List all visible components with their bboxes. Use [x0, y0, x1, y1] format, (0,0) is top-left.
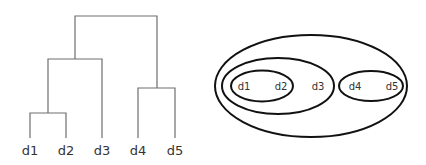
nested-sets: d1 d2 d3 d4 d5: [215, 35, 407, 137]
leaf-label-d3: d3: [94, 143, 111, 158]
set-label-d2: d2: [275, 81, 288, 92]
set-label-d3: d3: [312, 81, 325, 92]
set-label-d4: d4: [349, 81, 362, 92]
set-label-d5: d5: [386, 81, 399, 92]
set-label-d1: d1: [238, 81, 251, 92]
leaf-label-d2: d2: [58, 143, 75, 158]
merge-d12-d3: [48, 59, 102, 138]
merge-d1-d2: [30, 113, 66, 138]
leaf-label-d5: d5: [167, 143, 184, 158]
leaf-label-d1: d1: [22, 143, 39, 158]
dendrogram: d1 d2 d3 d4 d5: [22, 16, 184, 158]
leaf-label-d4: d4: [130, 143, 147, 158]
clustering-diagram: d1 d2 d3 d4 d5 d1 d2 d3 d4 d5: [0, 0, 426, 165]
merge-d4-d5: [138, 88, 175, 138]
merge-root: [75, 16, 157, 88]
